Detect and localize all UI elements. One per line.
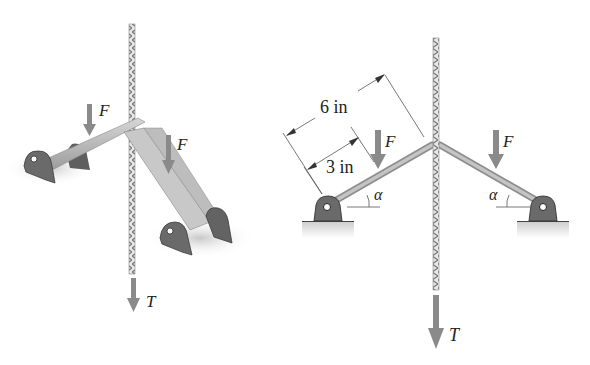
pin-icon xyxy=(540,204,547,211)
force-arrow-right-2d xyxy=(488,130,504,169)
right-figure: 6 in 3 in α α xyxy=(283,38,569,349)
tension-arrow-2d xyxy=(428,295,444,349)
angle-alpha-right: α xyxy=(489,186,498,203)
dimension-6in: 6 in xyxy=(320,97,348,117)
ground-right xyxy=(517,222,569,239)
force-label: F xyxy=(384,132,396,151)
tension-label: T xyxy=(449,325,461,345)
diagram-canvas: F F T xyxy=(0,0,590,365)
force-arrow-left-3d xyxy=(83,104,96,136)
rope-left xyxy=(129,24,135,274)
dimension-3in: 3 in xyxy=(326,157,354,177)
force-label: F xyxy=(502,132,514,151)
tension-label: T xyxy=(146,292,157,311)
ground-left xyxy=(302,222,354,239)
angle-alpha-left: α xyxy=(374,186,383,203)
pin-icon xyxy=(324,204,331,211)
pin-icon xyxy=(31,156,37,162)
pin-icon xyxy=(167,228,173,234)
rope-right xyxy=(433,38,439,290)
support-right-2d xyxy=(529,196,557,221)
force-label: F xyxy=(98,101,110,120)
left-figure: F F T xyxy=(5,24,255,312)
force-label: F xyxy=(176,135,188,154)
tension-arrow-3d xyxy=(127,278,140,312)
force-arrow-left-2d xyxy=(370,130,386,169)
support-left-2d xyxy=(314,196,342,221)
